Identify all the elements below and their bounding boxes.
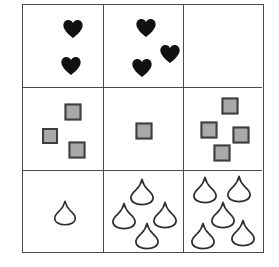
gray-square-icon bbox=[69, 142, 86, 159]
matrix-puzzle-grid bbox=[22, 4, 264, 253]
droplet-icon bbox=[52, 200, 78, 227]
gray-square-icon bbox=[233, 127, 250, 144]
matrix-cell-r3c1 bbox=[23, 171, 104, 252]
heart-icon bbox=[132, 58, 153, 77]
matrix-cell-r1c2 bbox=[104, 5, 184, 88]
droplet-icon bbox=[229, 219, 257, 248]
matrix-cell-r3c2 bbox=[104, 171, 184, 252]
heart-icon bbox=[160, 44, 181, 63]
droplet-icon bbox=[189, 222, 217, 251]
heart-icon bbox=[63, 19, 84, 38]
matrix-cell-r3c3 bbox=[184, 171, 262, 252]
heart-icon bbox=[136, 18, 157, 37]
heart-icon bbox=[61, 56, 82, 75]
matrix-cell-r2c3 bbox=[184, 88, 262, 171]
gray-square-icon bbox=[136, 123, 153, 140]
gray-square-icon bbox=[42, 128, 58, 144]
matrix-cell-r2c2 bbox=[104, 88, 184, 171]
gray-square-icon bbox=[214, 145, 231, 162]
matrix-cell-r1c3 bbox=[184, 5, 262, 88]
matrix-cell-r2c1 bbox=[23, 88, 104, 171]
gray-square-icon bbox=[201, 122, 218, 139]
droplet-icon bbox=[225, 175, 253, 204]
matrix-cell-r1c1 bbox=[23, 5, 104, 88]
gray-square-icon bbox=[65, 104, 82, 121]
gray-square-icon bbox=[222, 98, 239, 115]
droplet-icon bbox=[133, 222, 161, 251]
